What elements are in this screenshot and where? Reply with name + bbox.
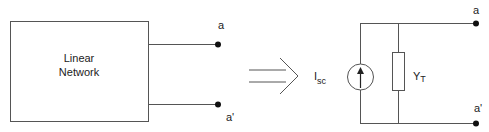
linear-network: Linear Network a a' — [11, 19, 235, 123]
right-terminal-a-prime-label: a' — [474, 102, 482, 114]
left-terminal-a-dot — [215, 42, 221, 48]
linear-network-label-line1: Linear — [64, 52, 95, 64]
norton-equivalent: Isc YT a a' — [314, 4, 482, 127]
equivalence-arrow — [249, 58, 298, 94]
source-label: Isc — [314, 70, 327, 86]
current-source-icon — [348, 64, 374, 90]
right-terminal-a-prime-dot — [473, 121, 479, 127]
right-terminal-a-dot — [473, 21, 479, 27]
right-terminal-a-label: a — [473, 4, 480, 16]
left-terminal-a-label: a — [218, 19, 225, 31]
left-terminal-a-prime-label: a' — [226, 111, 234, 123]
source-label-sub: sc — [317, 76, 327, 86]
admittance-resistor-icon — [393, 53, 405, 91]
left-terminal-a-prime-dot — [215, 102, 221, 108]
norton-equivalent-diagram: Linear Network a a' Isc — [0, 0, 489, 132]
admittance-label: YT — [413, 70, 426, 84]
admittance-label-sub: T — [420, 74, 426, 84]
arrow-chevron — [280, 58, 298, 94]
linear-network-label-line2: Network — [59, 66, 100, 78]
